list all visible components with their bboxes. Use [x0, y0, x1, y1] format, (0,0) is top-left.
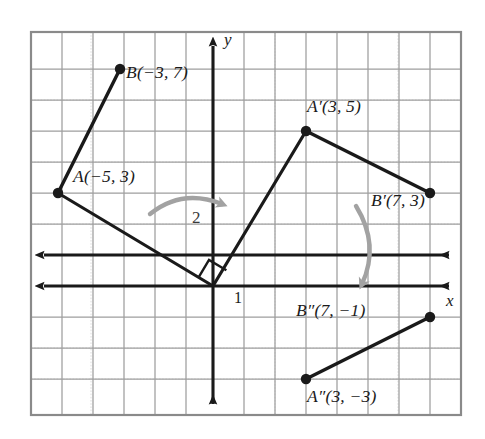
label-point-A-dprime: A″(3, −3): [307, 386, 377, 407]
point-B: [115, 64, 125, 74]
y-axis-label: y: [224, 30, 232, 50]
point-A-dprime: [301, 374, 311, 384]
x-axis-tick-label-one: 1: [234, 289, 242, 307]
label-point-A: A(−5, 3): [73, 166, 135, 187]
point-B-prime: [425, 188, 435, 198]
rotation-arrow-label: 2: [192, 208, 201, 228]
point-B-dprime: [425, 312, 435, 322]
coordinate-graph-svg: [0, 0, 485, 439]
point-A-prime: [301, 126, 311, 136]
label-point-B: B(−3, 7): [126, 62, 188, 83]
x-axis-label: x: [446, 291, 454, 311]
coordinate-plane-figure: B(−3, 7) A(−5, 3) A′(3, 5) B′(7, 3) B″(7…: [0, 0, 485, 439]
point-A: [53, 188, 63, 198]
label-point-A-prime: A′(3, 5): [307, 96, 361, 117]
label-point-B-dprime: B″(7, −1): [296, 300, 366, 321]
label-point-B-prime: B′(7, 3): [371, 190, 425, 211]
